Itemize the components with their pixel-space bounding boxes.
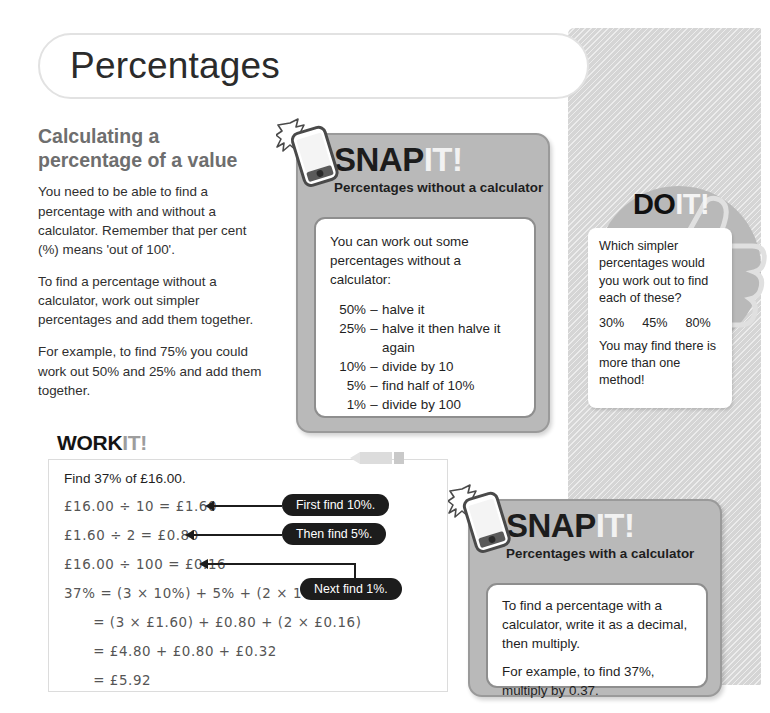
do-it-percentage: 45% bbox=[642, 316, 667, 330]
rule-dash: – bbox=[366, 319, 382, 357]
work-it-working-line: = (3 × £1.60) + £0.80 + (2 × £0.16) bbox=[64, 615, 362, 630]
work-it-working-line: = £4.80 + £0.80 + £0.32 bbox=[64, 644, 277, 659]
work-it-title-suffix: IT! bbox=[122, 431, 147, 454]
body-paragraph: You need to be able to find a percentage… bbox=[38, 182, 266, 259]
callout-then-find-5: Then find 5%. bbox=[282, 523, 386, 545]
do-it-title-main: DO bbox=[633, 188, 675, 220]
work-it-working-line: £1.60 ÷ 2 = £0.80 bbox=[64, 528, 199, 543]
page-title-bar: Percentages bbox=[38, 33, 589, 99]
rule-dash: – bbox=[366, 357, 382, 376]
do-it-percentage: 30% bbox=[599, 316, 624, 330]
percentage-rule-row: 5% – find half of 10% bbox=[330, 376, 520, 395]
rule-text: halve it bbox=[382, 300, 520, 319]
rule-percent: 50% bbox=[330, 300, 366, 319]
snap-it-content-panel: You can work out some percentages withou… bbox=[314, 217, 536, 418]
snap-it-subtitle: Percentages with a calculator bbox=[506, 546, 720, 561]
body-paragraph: To find a percentage without a calculato… bbox=[38, 272, 266, 329]
callout-arrow-head bbox=[205, 501, 214, 511]
do-it-box: DOIT! Which simpler percentages would yo… bbox=[588, 190, 748, 408]
do-it-note: You may find there is more than one meth… bbox=[599, 338, 721, 390]
body-paragraph: For example, to find 75% you could work … bbox=[38, 342, 266, 399]
rule-percent: 25% bbox=[330, 319, 366, 357]
rule-percent: 1% bbox=[330, 395, 366, 414]
smartphone-camera-icon bbox=[276, 117, 348, 193]
do-it-percentage-list: 30% 45% 80% bbox=[599, 316, 721, 330]
snap-it-content-panel: To find a percentage with a calculator, … bbox=[486, 583, 708, 688]
snap-it-title-suffix: IT! bbox=[424, 141, 463, 178]
callout-connector-line bbox=[194, 534, 282, 536]
work-it-title-main: WORK bbox=[57, 431, 122, 454]
work-it-title: WORKIT! bbox=[57, 432, 147, 453]
percentage-rule-row: 10% – divide by 10 bbox=[330, 357, 520, 376]
percentage-rule-row: 25% – halve it then halve it again bbox=[330, 319, 520, 357]
work-it-working-line: 37% = (3 × 10%) + 5% + (2 × 1%) bbox=[64, 586, 321, 601]
do-it-title: DOIT! bbox=[588, 190, 748, 219]
rule-dash: – bbox=[366, 300, 382, 319]
work-it-prompt: Find 37% of £16.00. bbox=[64, 471, 186, 486]
do-it-content-panel: Which simpler percentages would you work… bbox=[588, 228, 732, 408]
rule-dash: – bbox=[366, 395, 382, 414]
snap-it-title: SNAPIT! bbox=[506, 509, 720, 542]
callout-connector-line bbox=[214, 505, 282, 507]
page-title: Percentages bbox=[70, 45, 280, 87]
do-it-title-suffix: IT! bbox=[675, 188, 709, 220]
rule-text: halve it then halve it again bbox=[382, 319, 520, 357]
percentage-rule-row: 50% – halve it bbox=[330, 300, 520, 319]
snap-it-title: SNAPIT! bbox=[334, 143, 548, 176]
work-it-working-line: = £5.92 bbox=[64, 673, 151, 688]
rule-text: find half of 10% bbox=[382, 376, 520, 395]
section-heading: Calculating a percentage of a value bbox=[38, 124, 266, 172]
rule-percent: 5% bbox=[330, 376, 366, 395]
snap-it-subtitle: Percentages without a calculator bbox=[334, 180, 548, 195]
rule-dash: – bbox=[366, 376, 382, 395]
left-text-column: Calculating a percentage of a value You … bbox=[38, 124, 266, 413]
snap-it-intro-text: You can work out some percentages withou… bbox=[330, 232, 520, 289]
callout-next-find-1: Next find 1%. bbox=[300, 578, 402, 600]
snap-it-title-suffix: IT! bbox=[596, 507, 635, 544]
snap-it-paragraph: To find a percentage with a calculator, … bbox=[502, 596, 692, 653]
smartphone-camera-icon bbox=[448, 483, 520, 559]
callout-arrow-head bbox=[199, 559, 208, 569]
rule-text: divide by 10 bbox=[382, 357, 520, 376]
do-it-question: Which simpler percentages would you work… bbox=[599, 238, 721, 308]
rule-percent: 10% bbox=[330, 357, 366, 376]
do-it-percentage: 80% bbox=[685, 316, 710, 330]
percentage-rule-row: 1% – divide by 100 bbox=[330, 395, 520, 414]
snap-it-paragraph: For example, to find 37%, multiply by 0.… bbox=[502, 662, 692, 700]
callout-connector-line bbox=[208, 563, 356, 565]
rule-text: divide by 100 bbox=[382, 395, 520, 414]
callout-first-find-10: First find 10%. bbox=[282, 494, 389, 516]
pencil-icon bbox=[350, 450, 408, 466]
work-it-working-line: £16.00 ÷ 10 = £1.60 bbox=[64, 499, 217, 514]
callout-arrow-head bbox=[185, 530, 194, 540]
